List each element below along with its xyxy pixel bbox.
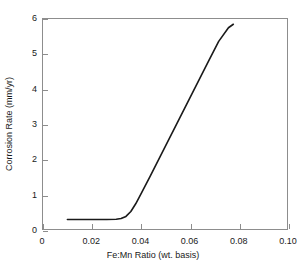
x-tick-label: 0.02: [82, 236, 100, 246]
x-tick-mark: [141, 224, 142, 229]
corrosion-rate-curve-svg: [43, 19, 287, 229]
y-axis-label: Corrosion Rate (mm/yr): [4, 77, 14, 171]
x-tick-mark: [240, 224, 241, 229]
y-tick-label: 2: [15, 154, 37, 164]
y-tick-mark: [43, 196, 48, 197]
x-tick-mark: [43, 224, 44, 229]
y-tick-mark: [43, 19, 48, 20]
plot-area: [42, 18, 288, 230]
y-tick-label: 3: [15, 119, 37, 129]
corrosion-rate-curve: [67, 24, 233, 219]
y-tick-label: 0: [15, 225, 37, 235]
y-tick-mark: [43, 125, 48, 126]
x-tick-label: 0: [39, 236, 44, 246]
x-tick-label: 0.10: [279, 236, 297, 246]
y-tick-label: 6: [15, 13, 37, 23]
y-tick-label: 1: [15, 190, 37, 200]
x-tick-mark: [289, 224, 290, 229]
y-tick-mark: [43, 160, 48, 161]
y-tick-label: 5: [15, 48, 37, 58]
x-tick-mark: [92, 224, 93, 229]
x-tick-label: 0.04: [132, 236, 150, 246]
x-tick-label: 0.08: [230, 236, 248, 246]
x-tick-label: 0.06: [181, 236, 199, 246]
y-tick-mark: [43, 90, 48, 91]
y-tick-label: 4: [15, 84, 37, 94]
x-axis-label: Fe:Mn Ratio (wt. basis): [0, 250, 306, 260]
x-tick-mark: [191, 224, 192, 229]
y-tick-mark: [43, 231, 48, 232]
y-tick-mark: [43, 54, 48, 55]
chart-figure: Corrosion Rate (mm/yr) 0123456 00.020.04…: [0, 0, 306, 271]
y-axis-label-container: Corrosion Rate (mm/yr): [2, 18, 16, 230]
